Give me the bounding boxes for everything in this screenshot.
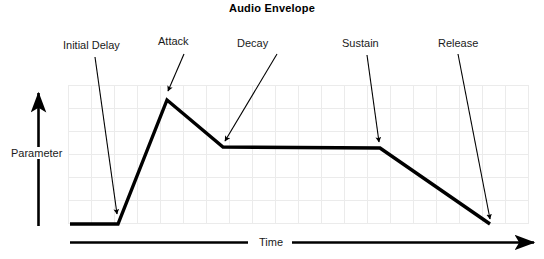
page-title: Audio Envelope	[0, 2, 544, 14]
leader-line-decay	[225, 54, 277, 141]
leader-line-release	[458, 54, 490, 219]
leader-line-initial-delay	[95, 57, 117, 214]
stage-label-decay: Decay	[236, 37, 269, 49]
stage-label-initial-delay: Initial Delay	[62, 39, 121, 51]
stage-label-attack: Attack	[157, 35, 190, 47]
stage-label-release: Release	[437, 37, 479, 49]
audio-envelope-diagram: Audio Envelope Initial Delay Attack Deca…	[0, 0, 544, 259]
leader-line-sustain	[367, 55, 379, 142]
stage-label-sustain: Sustain	[341, 37, 380, 49]
envelope-curve	[70, 100, 490, 224]
x-axis-label: Time	[256, 236, 286, 248]
y-axis-label: Parameter	[8, 147, 65, 159]
